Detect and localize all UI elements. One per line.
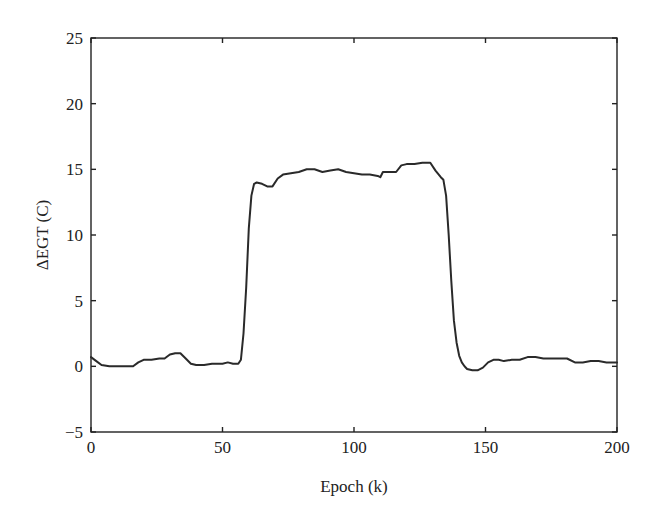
x-tick-label: 100 [341, 438, 367, 457]
x-tick-label: 200 [604, 438, 630, 457]
x-tick-label: 0 [87, 438, 96, 457]
y-tick-label: −5 [65, 423, 83, 442]
y-axis-tick-labels: −50510152025 [65, 29, 83, 442]
line-chart: −50510152025 050100150200 Epoch (k) ΔEGT… [0, 0, 663, 508]
y-tick-label: 20 [66, 95, 83, 114]
y-axis-label: ΔEGT (C) [33, 200, 52, 271]
x-axis-label: Epoch (k) [320, 477, 388, 496]
y-tick-label: 5 [75, 292, 84, 311]
y-tick-label: 10 [66, 226, 83, 245]
y-tick-label: 25 [66, 29, 83, 48]
y-tick-label: 0 [75, 357, 84, 376]
plot-area [91, 38, 617, 432]
x-tick-label: 50 [214, 438, 231, 457]
y-tick-label: 15 [66, 160, 83, 179]
x-axis-tick-labels: 050100150200 [87, 438, 630, 457]
x-tick-label: 150 [473, 438, 499, 457]
